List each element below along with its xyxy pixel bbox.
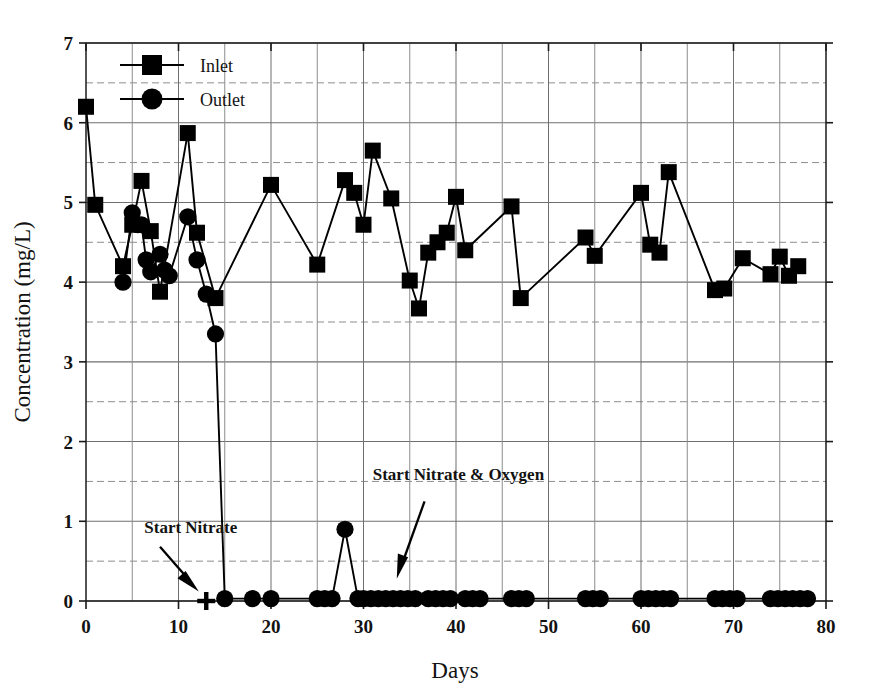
data-point-outlet [729,590,746,607]
x-tick-label: 30 [354,616,373,637]
x-axis-title: Days [431,658,478,683]
x-tick-label: 40 [447,616,466,637]
x-tick-label: 80 [817,616,836,637]
data-point-inlet [578,230,594,246]
data-point-inlet [309,257,325,273]
x-tick-label: 60 [632,616,651,637]
data-point-outlet [336,521,353,538]
data-point-outlet [161,267,178,284]
data-point-inlet [790,258,806,274]
x-tick-label: 50 [539,616,558,637]
data-point-inlet [180,125,196,141]
data-point-outlet [198,286,215,303]
data-point-inlet [365,143,381,159]
data-point-outlet [442,590,459,607]
data-point-outlet [216,590,233,607]
data-point-outlet [323,590,340,607]
data-point-outlet [471,590,488,607]
data-point-inlet [439,225,455,241]
data-point-inlet [735,250,751,266]
data-point-inlet [504,198,520,214]
data-point-outlet [592,590,609,607]
y-tick-label: 2 [64,432,74,453]
y-tick-label: 5 [64,192,74,213]
data-point-outlet [151,246,168,263]
legend-marker-square-icon [142,55,162,75]
y-tick-label: 6 [64,113,74,134]
x-tick-label: 10 [169,616,188,637]
x-tick-label: 0 [81,616,91,637]
y-tick-label: 0 [64,591,74,612]
data-point-inlet [263,177,279,193]
y-axis-title: Concentration (mg/L) [10,221,35,422]
data-point-inlet [716,281,732,297]
data-point-inlet [457,242,473,258]
data-point-outlet [799,590,816,607]
annotation-label: Start Nitrate [144,518,237,537]
y-tick-label: 3 [64,352,74,373]
annotation-label: Start Nitrate & Oxygen [373,465,545,484]
data-point-outlet [188,251,205,268]
data-point-inlet [87,197,103,213]
data-point-inlet [772,249,788,265]
legend-label: Outlet [200,90,245,110]
data-point-inlet [513,290,529,306]
data-point-outlet [262,590,279,607]
data-point-inlet [115,258,131,274]
data-point-inlet [411,300,427,316]
legend-marker-circle-icon [142,89,163,110]
chart-page: 01234567 01020304050607080 Start Nitrate… [0,0,875,697]
data-point-inlet [356,217,372,233]
y-tick-label: 1 [64,511,74,532]
legend-label: Inlet [200,56,233,76]
y-tick-label: 4 [64,272,74,293]
data-point-outlet [114,274,131,291]
data-point-inlet [652,245,668,261]
data-point-outlet [207,325,224,342]
data-point-inlet [383,190,399,206]
data-point-inlet [189,225,205,241]
data-point-inlet [633,185,649,201]
data-point-outlet [244,590,261,607]
x-tick-label: 70 [724,616,743,637]
x-tick-label: 20 [262,616,281,637]
data-point-inlet [346,185,362,201]
concentration-vs-days-line-chart: 01234567 01020304050607080 Start Nitrate… [0,0,875,697]
data-point-outlet [179,208,196,225]
data-point-inlet [661,164,677,180]
data-point-inlet [152,284,168,300]
data-point-inlet [448,189,464,205]
data-point-outlet [133,216,150,233]
y-tick-label: 7 [64,33,74,54]
data-point-inlet [587,248,603,264]
data-point-inlet [134,173,150,189]
data-point-inlet [78,99,94,115]
data-point-outlet [662,590,679,607]
data-point-inlet [402,273,418,289]
data-point-outlet [518,590,535,607]
data-point-inlet [763,266,779,282]
